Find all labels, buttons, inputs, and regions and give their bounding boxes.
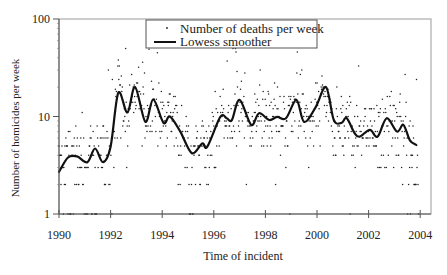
data-point <box>368 145 370 147</box>
data-point <box>155 131 157 133</box>
data-point <box>393 105 395 107</box>
data-point <box>358 65 360 67</box>
data-point <box>193 155 195 157</box>
data-point <box>399 102 401 104</box>
data-point <box>211 155 213 157</box>
data-point <box>190 145 192 147</box>
data-point <box>395 108 397 110</box>
data-point <box>396 116 398 118</box>
data-point <box>173 96 175 98</box>
data-point <box>221 105 223 107</box>
data-point <box>347 131 349 133</box>
data-point <box>97 167 99 169</box>
data-point <box>289 105 291 107</box>
data-point <box>72 145 74 147</box>
data-point <box>290 96 292 98</box>
data-point <box>328 120 330 122</box>
data-point <box>81 167 83 169</box>
data-point <box>313 145 315 147</box>
data-point <box>322 84 324 86</box>
data-point <box>308 167 310 169</box>
data-point <box>209 167 211 169</box>
data-point <box>304 112 306 114</box>
data-point <box>385 108 387 110</box>
data-point <box>319 120 321 122</box>
data-point <box>298 137 300 139</box>
data-point <box>370 120 372 122</box>
data-point <box>79 145 81 147</box>
data-point <box>90 125 92 127</box>
homicides-chart: 110100 19901992199419961998200020022004 … <box>0 0 447 275</box>
data-point <box>194 145 196 147</box>
data-point <box>348 105 350 107</box>
data-point <box>83 137 85 139</box>
data-point <box>412 125 414 127</box>
data-point <box>249 125 251 127</box>
data-point <box>315 125 317 127</box>
data-point <box>319 145 321 147</box>
data-point <box>355 137 357 139</box>
data-point <box>247 125 249 127</box>
data-point <box>114 137 116 139</box>
data-point <box>306 116 308 118</box>
data-point <box>96 125 98 127</box>
data-point <box>196 137 198 139</box>
data-point <box>184 167 186 169</box>
data-point <box>277 86 279 88</box>
data-point <box>354 167 356 169</box>
x-ticks: 19901992199419961998200020022004 <box>47 210 432 242</box>
data-point <box>263 145 265 147</box>
data-point <box>80 167 82 169</box>
data-point <box>157 52 159 54</box>
data-point <box>274 105 276 107</box>
data-point <box>404 131 406 133</box>
data-point <box>409 167 411 169</box>
data-point <box>212 112 214 114</box>
data-point <box>274 82 276 84</box>
data-point <box>100 155 102 157</box>
data-point <box>69 131 71 133</box>
data-point <box>355 131 357 133</box>
data-point <box>303 131 305 133</box>
data-point <box>234 131 236 133</box>
data-point <box>349 96 351 98</box>
data-point <box>357 145 359 147</box>
data-point <box>284 145 286 147</box>
data-point <box>262 91 264 93</box>
legend: Number of deaths per week Lowess smoothe… <box>146 20 324 49</box>
data-point <box>200 184 202 186</box>
data-point <box>231 131 233 133</box>
data-point <box>144 72 146 74</box>
data-point <box>115 89 117 91</box>
data-point <box>227 112 229 114</box>
data-point <box>287 145 289 147</box>
data-point <box>321 75 323 77</box>
data-point <box>118 79 120 81</box>
data-point <box>392 137 394 139</box>
x-tick-label: 1998 <box>253 228 277 242</box>
data-point <box>216 145 218 147</box>
data-point <box>305 137 307 139</box>
data-point <box>332 145 334 147</box>
data-point <box>356 105 358 107</box>
data-point <box>256 125 258 127</box>
data-point <box>134 102 136 104</box>
data-point <box>169 93 171 95</box>
data-point <box>323 96 325 98</box>
data-point <box>374 120 376 122</box>
data-point <box>405 102 407 104</box>
data-point <box>259 69 261 71</box>
data-point <box>61 155 63 157</box>
data-point <box>293 96 295 98</box>
data-point <box>122 86 124 88</box>
data-point <box>350 102 352 104</box>
data-point <box>312 116 314 118</box>
data-point <box>124 116 126 118</box>
data-point <box>142 62 144 64</box>
data-point <box>369 137 371 139</box>
data-point <box>65 184 67 186</box>
data-point <box>223 108 225 110</box>
data-point <box>166 112 168 114</box>
data-point <box>305 105 307 107</box>
data-point <box>225 120 227 122</box>
